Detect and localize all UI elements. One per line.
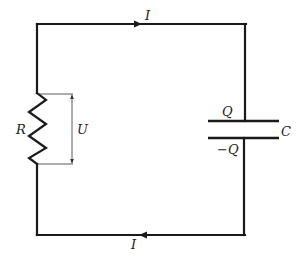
resistor-icon: [29, 93, 46, 164]
rc-circuit-diagram: I R U I Q −Q C: [0, 0, 306, 258]
current-arrow-left-icon: [139, 232, 147, 239]
current-arrow-right-icon: [134, 21, 142, 28]
resistor-label: R: [15, 122, 26, 137]
current-label-top: I: [144, 8, 151, 23]
voltage-label: U: [77, 122, 89, 137]
voltage-arrowhead-up-icon: [70, 94, 74, 99]
charge-negative-label: −Q: [217, 142, 239, 157]
capacitor-label: C: [281, 124, 291, 139]
current-label-bottom: I: [130, 237, 137, 252]
charge-positive-label: Q: [222, 104, 233, 119]
voltage-arrowhead-down-icon: [70, 159, 74, 164]
